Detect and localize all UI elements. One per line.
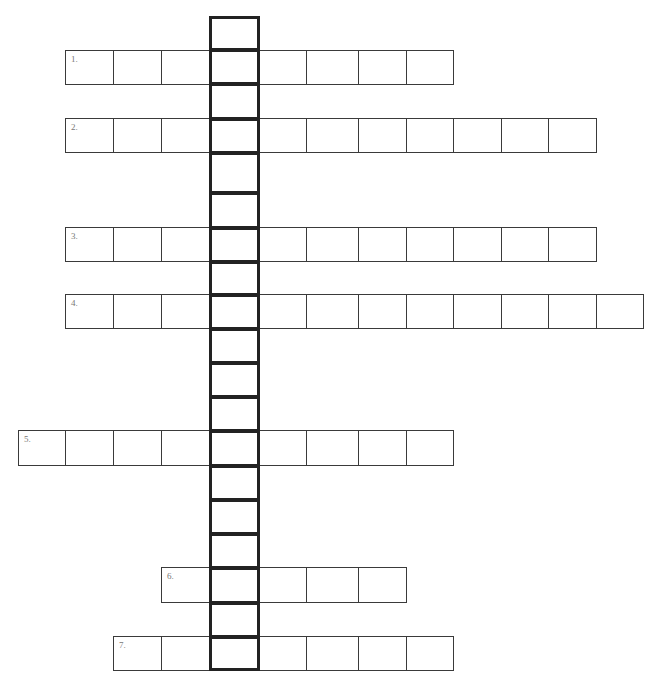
- letter-cell[interactable]: [113, 294, 162, 329]
- letter-cell[interactable]: [259, 227, 307, 262]
- keyword-cell[interactable]: [209, 396, 260, 432]
- letter-cell[interactable]: [548, 227, 597, 262]
- clue-number: 7.: [119, 641, 126, 650]
- letter-cell[interactable]: [113, 50, 162, 85]
- keyword-cell[interactable]: [209, 430, 260, 467]
- keyword-cell[interactable]: [209, 49, 260, 85]
- letter-cell[interactable]: [406, 636, 454, 671]
- letter-cell[interactable]: [259, 294, 307, 329]
- clue-number: 2.: [71, 123, 78, 132]
- keyword-cell[interactable]: [209, 636, 260, 671]
- clue-number: 6.: [167, 572, 174, 581]
- clue-number: 3.: [71, 232, 78, 241]
- letter-cell[interactable]: [306, 430, 359, 466]
- letter-cell[interactable]: [406, 430, 454, 466]
- letter-cell[interactable]: [453, 118, 502, 153]
- keyword-cell[interactable]: [209, 533, 260, 569]
- letter-cell[interactable]: [259, 430, 307, 466]
- letter-cell[interactable]: [406, 118, 454, 153]
- keyword-cell[interactable]: [209, 16, 260, 51]
- letter-cell[interactable]: [358, 430, 407, 466]
- letter-cell[interactable]: [358, 118, 407, 153]
- clue-number: 4.: [71, 299, 78, 308]
- keyword-cell[interactable]: [209, 362, 260, 398]
- letter-cell[interactable]: [306, 118, 359, 153]
- letter-cell[interactable]: [306, 227, 359, 262]
- letter-cell[interactable]: [453, 227, 502, 262]
- letter-cell[interactable]: [306, 567, 359, 603]
- letter-cell[interactable]: [113, 430, 162, 466]
- letter-cell[interactable]: [259, 118, 307, 153]
- letter-cell[interactable]: [259, 50, 307, 85]
- letter-cell[interactable]: [306, 294, 359, 329]
- keyword-cell[interactable]: [209, 83, 260, 120]
- letter-cell[interactable]: [161, 636, 210, 671]
- keyword-cell[interactable]: [209, 294, 260, 330]
- letter-cell[interactable]: [548, 118, 597, 153]
- letter-cell[interactable]: [501, 227, 549, 262]
- letter-cell[interactable]: [306, 636, 359, 671]
- letter-cell[interactable]: [548, 294, 597, 329]
- letter-cell[interactable]: [501, 118, 549, 153]
- letter-cell[interactable]: [596, 294, 644, 329]
- letter-cell[interactable]: [358, 227, 407, 262]
- letter-cell[interactable]: [259, 636, 307, 671]
- letter-cell[interactable]: [358, 636, 407, 671]
- keyword-cell[interactable]: [209, 152, 260, 194]
- keyword-cell[interactable]: [209, 499, 260, 535]
- letter-cell[interactable]: 1.: [65, 50, 114, 85]
- letter-cell[interactable]: [161, 227, 210, 262]
- clue-number: 1.: [71, 55, 78, 64]
- keyword-cell[interactable]: [209, 118, 260, 154]
- letter-cell[interactable]: [501, 294, 549, 329]
- keyword-cell[interactable]: [209, 465, 260, 501]
- letter-cell[interactable]: 7.: [113, 636, 162, 671]
- keyword-cell[interactable]: [209, 227, 260, 263]
- letter-cell[interactable]: [406, 294, 454, 329]
- keyword-cell[interactable]: [209, 567, 260, 604]
- letter-cell[interactable]: 4.: [65, 294, 114, 329]
- letter-cell[interactable]: [358, 50, 407, 85]
- letter-cell[interactable]: [113, 118, 162, 153]
- letter-cell[interactable]: [113, 227, 162, 262]
- keyword-cell[interactable]: [209, 602, 260, 638]
- keyword-cell[interactable]: [209, 192, 260, 229]
- letter-cell[interactable]: [161, 118, 210, 153]
- letter-cell[interactable]: [358, 294, 407, 329]
- letter-cell[interactable]: 5.: [18, 430, 66, 466]
- letter-cell[interactable]: 6.: [161, 567, 210, 603]
- letter-cell[interactable]: [406, 227, 454, 262]
- letter-cell[interactable]: [161, 294, 210, 329]
- keyword-cell[interactable]: [209, 261, 260, 296]
- letter-cell[interactable]: [161, 50, 210, 85]
- keyword-cell[interactable]: [209, 328, 260, 364]
- letter-cell[interactable]: [259, 567, 307, 603]
- letter-cell[interactable]: [161, 430, 210, 466]
- letter-cell[interactable]: 3.: [65, 227, 114, 262]
- letter-cell[interactable]: [65, 430, 114, 466]
- letter-cell[interactable]: [358, 567, 407, 603]
- letter-cell[interactable]: 2.: [65, 118, 114, 153]
- clue-number: 5.: [24, 435, 31, 444]
- letter-cell[interactable]: [306, 50, 359, 85]
- letter-cell[interactable]: [406, 50, 454, 85]
- letter-cell[interactable]: [453, 294, 502, 329]
